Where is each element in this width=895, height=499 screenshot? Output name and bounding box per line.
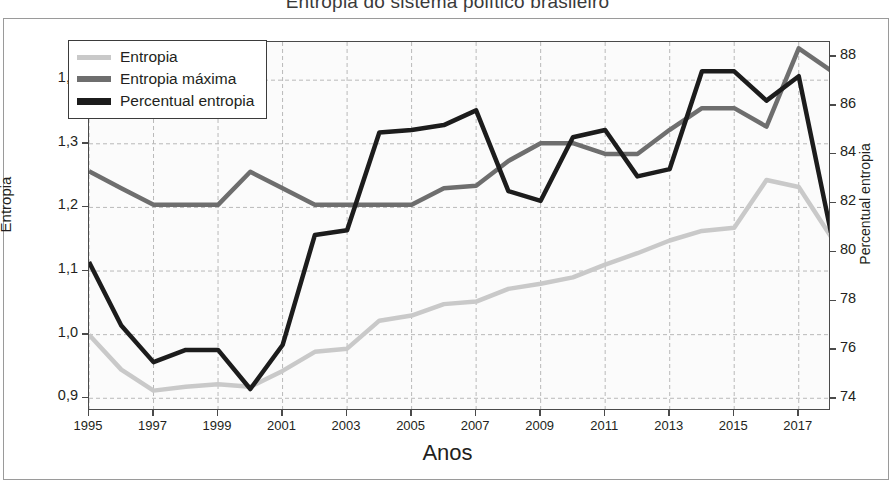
legend-label: Entropia máxima [120,70,236,88]
x-tick-label: 2003 [316,418,376,433]
series-line [89,180,830,391]
legend-label: Entropia [120,48,178,66]
tick-mark [830,348,836,350]
x-tick-label: 1995 [58,418,118,433]
legend-item: Percentual entropia [77,90,254,112]
tick-mark [475,410,477,416]
legend-swatch-icon [77,76,111,82]
tick-mark [830,300,836,302]
x-tick-label: 2015 [703,418,763,433]
y-right-tick-label: 76 [840,339,880,355]
y-right-tick-label: 84 [840,143,880,159]
tick-mark [668,410,670,416]
chart-figure: Entropia do sistema político brasileiro … [0,0,895,499]
tick-mark [82,270,88,272]
y-left-tick-label: 1,1 [26,260,78,276]
legend-swatch-icon [77,55,111,60]
tick-mark [217,410,219,416]
x-tick-label: 2013 [639,418,699,433]
tick-mark [539,410,541,416]
legend-swatch-icon [77,98,111,105]
tick-mark [830,397,836,399]
y-right-tick-label: 82 [840,192,880,208]
x-axis-title: Anos [0,440,895,466]
x-tick-label: 1997 [123,418,183,433]
x-tick-label: 1999 [187,418,247,433]
tick-mark [82,206,88,208]
tick-mark [830,202,836,204]
tick-mark [830,251,836,253]
tick-mark [88,410,90,416]
tick-mark [830,153,836,155]
x-tick-label: 2009 [510,418,570,433]
y-left-tick-label: 1,3 [26,133,78,149]
y-right-tick-label: 80 [840,241,880,257]
legend-label: Percentual entropia [120,92,254,110]
y-left-tick-label: 1,2 [26,196,78,212]
tick-mark [797,410,799,416]
y-right-tick-label: 74 [840,388,880,404]
y-axis-left-title: Entropia [0,177,14,233]
tick-mark [152,410,154,416]
x-tick-label: 2001 [252,418,312,433]
y-right-tick-label: 88 [840,46,880,62]
x-tick-label: 2011 [574,418,634,433]
tick-mark [82,333,88,335]
y-right-tick-label: 78 [840,290,880,306]
chart-title: Entropia do sistema político brasileiro [0,0,895,13]
y-right-tick-label: 86 [840,95,880,111]
chart-legend: EntropiaEntropia máximaPercentual entrop… [68,40,267,119]
tick-mark [830,55,836,57]
tick-mark [733,410,735,416]
y-left-tick-label: 1,0 [26,324,78,340]
tick-mark [830,104,836,106]
tick-mark [410,410,412,416]
tick-mark [281,410,283,416]
x-tick-label: 2005 [381,418,441,433]
tick-mark [346,410,348,416]
x-tick-label: 2017 [768,418,828,433]
y-left-tick-label: 0,9 [26,387,78,403]
tick-mark [82,397,88,399]
legend-item: Entropia máxima [77,68,254,90]
legend-item: Entropia [77,46,254,68]
tick-mark [82,142,88,144]
x-tick-label: 2007 [445,418,505,433]
tick-mark [604,410,606,416]
